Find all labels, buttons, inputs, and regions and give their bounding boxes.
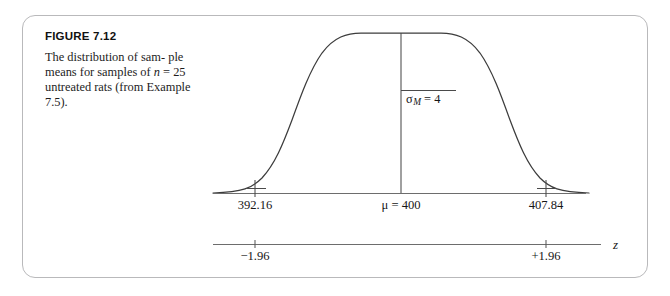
plot-svg: [0, 0, 670, 296]
z-axis-name-label: z: [613, 237, 618, 253]
figure-container: FIGURE 7.12 The distribution of sam- ple…: [0, 0, 670, 296]
x-axis-label-left: 392.16: [238, 198, 273, 213]
x-axis-label-mean: μ = 400: [381, 198, 420, 213]
x-axis-label-right: 407.84: [529, 198, 564, 213]
sigma-symbol: σ: [406, 92, 413, 106]
standard-error-label: σM = 4: [406, 92, 440, 107]
sigma-value: = 4: [421, 92, 440, 106]
sigma-subscript-m: M: [413, 97, 421, 107]
z-axis-label-left: −1.96: [240, 249, 269, 264]
distribution-plot: 392.16 μ = 400 407.84 σM = 4 −1.96 +1.96…: [0, 0, 670, 296]
z-axis-label-right: +1.96: [531, 249, 560, 264]
